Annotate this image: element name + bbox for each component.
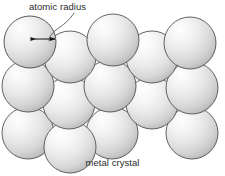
sphere-row-top xyxy=(4,14,216,69)
crystal-packing-illustration xyxy=(0,0,225,176)
atom-sphere-measured xyxy=(4,16,56,68)
atom-sphere xyxy=(87,14,139,66)
metal-crystal-figure: atomic radius metal crystal xyxy=(0,0,225,176)
atom-sphere xyxy=(164,17,216,69)
metal-crystal-caption: metal crystal xyxy=(0,158,225,168)
atomic-radius-label: atomic radius xyxy=(29,2,86,12)
